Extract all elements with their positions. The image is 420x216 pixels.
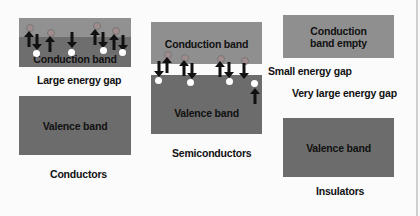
arrow-up-icon <box>249 88 261 104</box>
very-large-energy-gap-label: Very large energy gap <box>292 87 397 99</box>
insulators-conduction-band: Conduction band empty <box>283 15 394 58</box>
conductors-valence-band: Valence band <box>19 96 131 155</box>
conduction-band-label: Conduction band <box>165 38 248 50</box>
hole-icon <box>187 79 194 86</box>
hole-icon <box>100 47 107 54</box>
hole-icon <box>155 77 162 84</box>
arrow-down-icon <box>66 32 78 48</box>
valence-band-label: Valence band <box>174 107 239 119</box>
right-border <box>416 0 418 216</box>
arrow-down-icon <box>223 62 235 78</box>
arrow-down-icon <box>238 63 250 79</box>
conduction-band-empty-label: Conduction band empty <box>299 25 379 49</box>
small-energy-gap-label: Small energy gap <box>268 65 352 77</box>
hole-icon <box>251 80 258 87</box>
large-energy-gap-label: Large energy gap <box>37 74 121 86</box>
conductors-caption: Conductors <box>50 168 107 180</box>
arrow-down-icon <box>31 34 43 50</box>
arrow-down-icon <box>153 61 165 77</box>
arrow-down-icon <box>186 63 198 79</box>
semiconductors-caption: Semiconductors <box>172 147 251 159</box>
insulators-valence-band: Valence band <box>283 118 394 177</box>
arrow-up-icon <box>44 36 56 52</box>
hole-icon <box>226 78 233 85</box>
semiconductors-valence-band: Valence band <box>151 75 262 134</box>
hole-icon <box>119 49 126 56</box>
valence-band-label: Valence band <box>43 120 108 132</box>
insulators-caption: Insulators <box>316 185 364 197</box>
conduction-band-label: Conduction band <box>33 53 116 65</box>
hole-icon <box>33 50 40 57</box>
hole-icon <box>68 49 75 56</box>
valence-band-label: Valence band <box>306 142 371 154</box>
